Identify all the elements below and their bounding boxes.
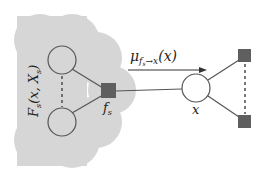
variable-node-x xyxy=(182,74,210,102)
variable-node-lower xyxy=(48,108,76,136)
variable-node-upper xyxy=(48,46,76,74)
edge-x-to-upper-factor xyxy=(208,60,239,80)
factor-node-fs xyxy=(101,83,116,98)
variable-label: x xyxy=(192,102,200,117)
message-arrow xyxy=(128,67,207,73)
edge-x-to-lower-factor xyxy=(208,96,239,117)
factor-node-right-upper xyxy=(238,49,251,62)
message-label: μfs→x(x) xyxy=(130,48,177,67)
factor-node-right-lower xyxy=(238,115,251,128)
factor-graph-diagram: μfs→x(x) fs x Fs(x, Xs) xyxy=(0,0,271,176)
